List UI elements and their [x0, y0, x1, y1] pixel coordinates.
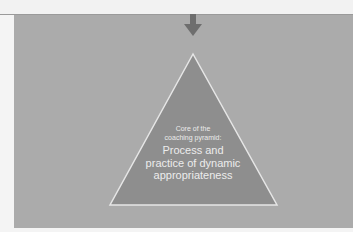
title-line-1: Process and — [130, 144, 256, 157]
subtitle-line-1: Core of the — [130, 124, 256, 133]
title-line-3: appropriateness — [130, 169, 256, 182]
pyramid-subtitle: Core of the coaching pyramid: — [130, 124, 256, 142]
pyramid-diagram — [0, 0, 353, 232]
pyramid-title: Process and practice of dynamic appropri… — [130, 144, 256, 182]
subtitle-line-2: coaching pyramid: — [130, 133, 256, 142]
title-line-2: practice of dynamic — [130, 157, 256, 170]
down-arrow-icon — [184, 14, 202, 36]
